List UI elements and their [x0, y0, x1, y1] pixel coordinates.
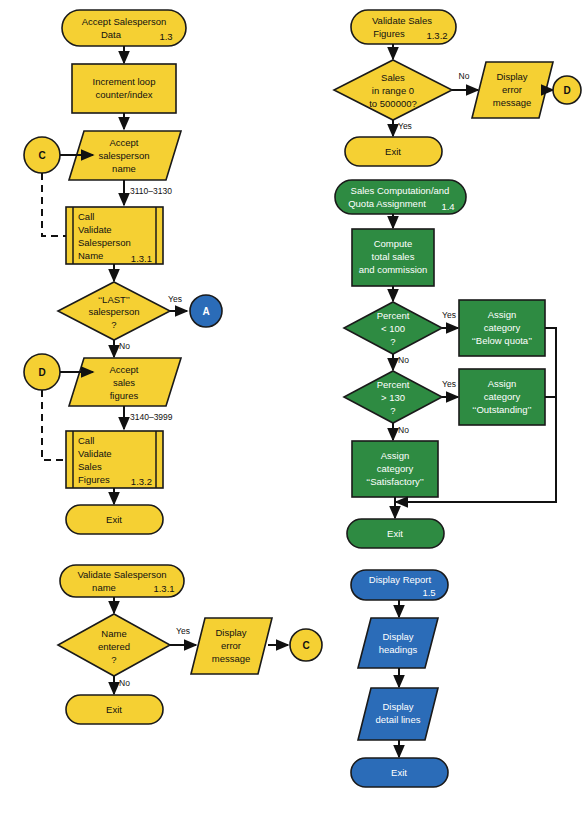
io-headings-line1: Display — [382, 631, 413, 642]
terminator-exit-132-label: Exit — [385, 146, 401, 157]
io-detail-line1: Display — [382, 701, 413, 712]
io-err131-line3: message — [212, 653, 251, 664]
predefined-2-line4: Figures — [78, 474, 110, 485]
terminator-14-ref: 1.4 — [441, 201, 454, 212]
flowchart-canvas: Accept Salesperson Data 1.3 Increment lo… — [0, 0, 585, 816]
decision-range-line2: in range 0 — [372, 85, 414, 96]
terminator-exit-1-3-label: Exit — [106, 514, 122, 525]
terminator-15-ref: 1.5 — [422, 587, 435, 598]
predefined-1-line1: Call — [78, 211, 94, 222]
io-err131-line2: error — [221, 640, 241, 651]
process-belowquota-line1: Assign — [488, 309, 517, 320]
decision-gt130-line3: ? — [390, 405, 395, 416]
label-gt130-no: No — [398, 425, 409, 435]
predefined-1-line2: Validate — [78, 224, 112, 235]
predefined-2-line1: Call — [78, 435, 94, 446]
process-satisfactory-line3: ‘‘Satisfactory’’ — [366, 476, 424, 487]
label-range-no: No — [459, 71, 470, 81]
io-accept-name-line2: salesperson — [98, 150, 149, 161]
terminator-exit-15-label: Exit — [391, 767, 407, 778]
process-belowquota-line3: ‘‘Below quota’’ — [472, 335, 532, 346]
process-compute-line2: total sales — [372, 251, 415, 262]
terminator-accept-ref: 1.3 — [159, 31, 172, 42]
label-name-yes: Yes — [176, 626, 190, 636]
terminator-exit-131-label: Exit — [106, 704, 122, 715]
connector-c-entry-label: C — [38, 150, 45, 161]
process-compute-line3: and commission — [359, 264, 428, 275]
line-ref-3140-3999: 3140–3999 — [130, 412, 173, 422]
connector-d-entry-label: D — [38, 367, 45, 378]
decision-lt100-line1: Percent — [377, 310, 410, 321]
label-lt100-no: No — [398, 355, 409, 365]
decision-gt130-line2: > 130 — [381, 392, 405, 403]
io-err132-line1: Display — [496, 71, 527, 82]
process-increment-line1: Increment loop — [93, 76, 156, 87]
terminator-exit-14-label: Exit — [387, 528, 403, 539]
process-increment-line2: counter/index — [95, 89, 152, 100]
connector-d-exit-label: D — [563, 85, 570, 96]
io-err132-line2: error — [502, 84, 522, 95]
decision-lt100-line3: ? — [390, 336, 395, 347]
decision-lt100-line2: < 100 — [381, 323, 405, 334]
terminator-15-line1: Display Report — [369, 574, 432, 585]
io-accept-name-line3: name — [112, 163, 136, 174]
dashed-d-return-to-validate-figures — [42, 390, 66, 460]
terminator-131-line1: Validate Salesperson — [77, 569, 166, 580]
decision-last-line1: ‘‘LAST’’ — [98, 294, 130, 305]
process-outstanding-line2: category — [484, 391, 521, 402]
io-detail-line2: detail lines — [376, 714, 421, 725]
terminator-14-line1: Sales Computation/and — [351, 185, 450, 196]
decision-gt130-line1: Percent — [377, 379, 410, 390]
terminator-14-line2: Quota Assignment — [348, 198, 426, 209]
label-lt100-yes: Yes — [442, 310, 456, 320]
io-err132-line3: message — [493, 97, 532, 108]
connector-a-label: A — [202, 306, 209, 317]
io-accept-sales-line2: sales — [113, 377, 135, 388]
predefined-2-line3: Sales — [78, 461, 102, 472]
predefined-1-ref: 1.3.1 — [131, 253, 152, 264]
terminator-accept-line1: Accept Salesperson — [82, 16, 167, 27]
io-accept-sales-line3: figures — [110, 390, 139, 401]
connector-c-exit-label: C — [302, 640, 309, 651]
io-accept-name-line1: Accept — [109, 137, 138, 148]
decision-range-line1: Sales — [381, 72, 405, 83]
predefined-2-ref: 1.3.2 — [131, 476, 152, 487]
predefined-1-line4: Name — [78, 250, 103, 261]
label-last-no: No — [119, 341, 130, 351]
decision-last-line3: ? — [111, 319, 116, 330]
terminator-131-ref: 1.3.1 — [153, 583, 174, 594]
label-name-no: No — [119, 678, 130, 688]
label-gt130-yes: Yes — [442, 379, 456, 389]
decision-range-line3: to 500000? — [369, 98, 417, 109]
line-ref-3110-3130: 3110–3130 — [130, 186, 172, 196]
flowchart-sheet: Accept Salesperson Data 1.3 Increment lo… — [0, 0, 585, 816]
dashed-c-return-to-validate-name — [42, 173, 66, 236]
decision-name-line1: Name — [101, 628, 126, 639]
process-belowquota-line2: category — [484, 322, 521, 333]
decision-last-line2: salesperson — [88, 306, 139, 317]
predefined-1-line3: Salesperson — [78, 237, 131, 248]
label-last-yes: Yes — [168, 294, 182, 304]
io-err131-line1: Display — [215, 627, 246, 638]
io-accept-sales-line1: Accept — [109, 364, 138, 375]
process-satisfactory-line1: Assign — [381, 450, 410, 461]
io-headings-line2: headings — [379, 644, 418, 655]
decision-name-line2: entered — [98, 641, 130, 652]
process-compute-line1: Compute — [374, 238, 413, 249]
label-range-yes: Yes — [398, 121, 412, 131]
process-outstanding-line1: Assign — [488, 378, 517, 389]
decision-name-line3: ? — [111, 654, 116, 665]
terminator-accept-line2: Data — [101, 29, 122, 40]
process-satisfactory-line2: category — [377, 463, 414, 474]
predefined-2-line2: Validate — [78, 448, 112, 459]
terminator-132-line1: Validate Sales — [372, 15, 432, 26]
terminator-132-ref: 1.3.2 — [426, 30, 447, 41]
process-outstanding-line3: ‘‘Outstanding’’ — [472, 404, 531, 415]
terminator-131-line2: name — [92, 582, 116, 593]
terminator-132-line2: Figures — [373, 28, 405, 39]
